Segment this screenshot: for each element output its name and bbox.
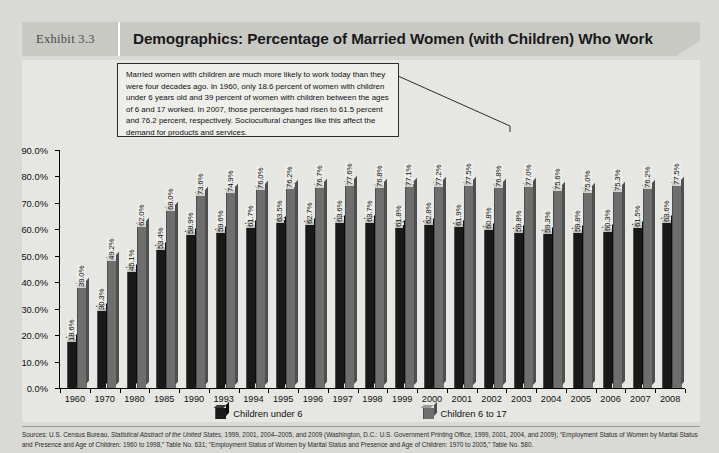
x-axis-tick-label: 1996 — [303, 394, 323, 404]
bar-value-label: 76.7% — [315, 165, 324, 188]
y-axis-tick-label: 80.0% — [0, 171, 48, 182]
bar-children-6-to-17-1994[interactable] — [256, 187, 265, 388]
bar-children-under-6-1985[interactable] — [156, 247, 165, 388]
x-axis-tick-label: 2001 — [452, 394, 472, 404]
x-axis-tick — [506, 389, 507, 393]
x-axis-tick-label: 1970 — [94, 394, 114, 404]
bar-children-under-6-1998[interactable] — [365, 220, 374, 388]
bar-children-under-6-1996[interactable] — [305, 222, 314, 388]
bar-children-6-to-17-1997[interactable] — [345, 183, 354, 388]
bar-value-label: 77.1% — [404, 164, 413, 187]
x-axis-tick-label: 1999 — [392, 394, 412, 404]
x-axis-tick-label: 1980 — [124, 394, 144, 404]
bar-children-under-6-1995[interactable] — [276, 220, 285, 388]
x-axis-tick-label: 1990 — [184, 394, 204, 404]
y-axis-tick-label: 50.0% — [0, 250, 48, 261]
bar-children-under-6-1994[interactable] — [246, 225, 255, 388]
x-axis-tick — [447, 389, 448, 393]
bar-children-6-to-17-1990[interactable] — [196, 193, 205, 388]
bar-children-6-to-17-1970[interactable] — [107, 258, 116, 388]
x-axis-tick-label: 2007 — [630, 394, 650, 404]
bar-children-6-to-17-1995[interactable] — [286, 187, 295, 389]
x-axis-tick — [536, 389, 537, 393]
bar-children-under-6-1993[interactable] — [216, 230, 225, 388]
x-axis-tick-label: 2008 — [660, 394, 680, 404]
y-axis-tick-label: 20.0% — [0, 330, 48, 341]
bar-value-label: 18.6% — [67, 318, 76, 341]
bar-children-6-to-17-1960[interactable] — [77, 285, 86, 388]
bar-children-6-to-17-2007[interactable] — [643, 187, 652, 389]
y-axis-tick — [55, 176, 60, 177]
bar-children-6-to-17-2002[interactable] — [494, 185, 503, 388]
y-axis-tick — [55, 203, 60, 204]
bar-children-6-to-17-2000[interactable] — [434, 184, 443, 388]
bar-children-under-6-1990[interactable] — [186, 232, 195, 388]
bar-children-6-to-17-1993[interactable] — [226, 190, 235, 388]
bar-value-label: 76.0% — [256, 167, 265, 190]
x-axis-tick — [655, 389, 656, 393]
bar-children-6-to-17-2006[interactable] — [613, 189, 622, 388]
y-axis-tick-label: 40.0% — [0, 277, 48, 288]
x-axis-tick-label: 2003 — [511, 394, 531, 404]
x-axis-tick-label: 2004 — [541, 394, 561, 404]
bar-children-6-to-17-2003[interactable] — [524, 184, 533, 388]
bar-value-label: 62.0% — [137, 204, 146, 227]
bar-children-under-6-1980[interactable] — [127, 269, 136, 388]
bar-value-label: 75.6% — [553, 168, 562, 191]
bar-children-under-6-1960[interactable] — [67, 339, 76, 388]
bar-children-under-6-2000[interactable] — [424, 222, 433, 388]
x-axis-tick — [239, 389, 240, 393]
legend-label: Children 6 to 17 — [441, 408, 507, 419]
bar-children-under-6-1970[interactable] — [97, 308, 106, 388]
page-title: Demographics: Percentage of Married Wome… — [120, 30, 653, 48]
x-axis-tick — [60, 389, 61, 393]
y-axis-tick — [55, 150, 60, 151]
bar-children-6-to-17-2004[interactable] — [553, 188, 562, 388]
x-axis-tick — [90, 389, 91, 393]
x-axis-tick — [596, 389, 597, 393]
exhibit-number: Exhibit 3.3 — [22, 32, 118, 47]
bar-children-under-6-2006[interactable] — [603, 229, 612, 388]
bar-children-under-6-2007[interactable] — [633, 225, 642, 388]
bar-children-under-6-2004[interactable] — [543, 231, 552, 388]
bar-value-label: 59.8% — [514, 209, 523, 232]
bar-value-label: 63.6% — [335, 199, 344, 222]
bar-children-under-6-2001[interactable] — [454, 224, 463, 388]
legend-item-children-6-to-17[interactable]: Children 6 to 17 — [423, 408, 507, 419]
x-axis-tick — [358, 389, 359, 393]
bar-value-label: 77.5% — [672, 163, 681, 186]
legend-item-children-under-6[interactable]: Children under 6 — [215, 408, 302, 419]
x-axis-tick — [179, 389, 180, 393]
y-axis-tick — [55, 256, 60, 257]
x-axis-tick — [685, 389, 686, 393]
bar-children-under-6-2008[interactable] — [662, 220, 671, 388]
bar-children-6-to-17-1980[interactable] — [137, 224, 146, 388]
bar-children-6-to-17-1999[interactable] — [405, 184, 414, 388]
bar-children-under-6-2003[interactable] — [514, 230, 523, 388]
bar-value-label: 73.6% — [196, 173, 205, 196]
chart-legend: Children under 6 Children 6 to 17 — [22, 404, 700, 422]
bar-children-6-to-17-2005[interactable] — [583, 190, 592, 388]
bar-value-label: 62.8% — [424, 202, 433, 225]
y-axis-tick-label: 30.0% — [0, 303, 48, 314]
bar-children-under-6-1999[interactable] — [395, 225, 404, 388]
bar-children-6-to-17-2008[interactable] — [672, 183, 681, 388]
y-axis-tick-label: 70.0% — [0, 197, 48, 208]
bar-children-6-to-17-1998[interactable] — [375, 185, 384, 388]
bar-children-6-to-17-1985[interactable] — [166, 208, 175, 388]
bar-children-under-6-2005[interactable] — [573, 230, 582, 388]
bar-value-label: 77.0% — [524, 164, 533, 187]
bar-value-label: 61.7% — [246, 204, 255, 227]
bar-value-label: 61.5% — [633, 205, 642, 228]
bar-value-label: 76.8% — [375, 165, 384, 188]
y-axis-tick — [55, 282, 60, 283]
bar-value-label: 76.2% — [643, 166, 652, 189]
x-axis-tick-label: 1995 — [273, 394, 293, 404]
bar-value-label: 60.8% — [484, 207, 493, 230]
bar-children-6-to-17-2001[interactable] — [464, 183, 473, 388]
bar-children-under-6-2002[interactable] — [484, 227, 493, 388]
legend-label: Children under 6 — [233, 408, 302, 419]
bar-children-under-6-1997[interactable] — [335, 220, 344, 388]
bar-value-label: 53.4% — [156, 226, 165, 249]
bar-children-6-to-17-1996[interactable] — [315, 185, 324, 388]
